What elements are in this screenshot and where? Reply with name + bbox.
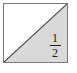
fraction-denominator: 2 bbox=[44, 47, 66, 59]
fraction-label: 1 2 bbox=[44, 32, 66, 59]
fraction-numerator: 1 bbox=[44, 32, 66, 44]
figure-root: 1 2 bbox=[0, 0, 77, 73]
fraction-square: 1 2 bbox=[3, 3, 68, 63]
